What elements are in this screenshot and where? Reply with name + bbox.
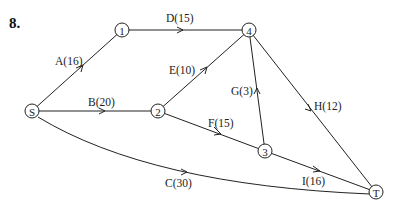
node-2: 2 <box>151 104 165 118</box>
node-label-s: S <box>29 106 35 118</box>
edge-label-h: H(12) <box>314 100 342 113</box>
edge-f: F(15) <box>158 111 265 151</box>
edge-label-i: I(16) <box>302 175 325 188</box>
node-label-4: 4 <box>246 25 252 37</box>
node-label-t: T <box>373 187 380 199</box>
edge-label-a: A(16) <box>55 55 83 68</box>
node-s: S <box>25 104 39 118</box>
network-diagram: A(16) B(20) C(30) D(15) E(10) F(15) G(3) <box>0 0 395 210</box>
node-1: 1 <box>115 23 129 37</box>
edge-label-d: D(15) <box>166 12 194 25</box>
node-3: 3 <box>258 144 272 158</box>
edge-label-g: G(3) <box>231 85 253 98</box>
edge-label-e: E(10) <box>169 64 195 77</box>
edge-g: G(3) <box>231 30 265 151</box>
node-label-3: 3 <box>262 146 268 158</box>
edge-d: D(15) <box>122 12 249 33</box>
node-label-1: 1 <box>119 25 125 37</box>
edge-label-b: B(20) <box>88 96 115 109</box>
edge-label-c: C(30) <box>165 177 192 190</box>
edge-e: E(10) <box>158 30 249 111</box>
edge-label-f: F(15) <box>208 117 234 130</box>
node-4: 4 <box>242 23 256 37</box>
edge-b: B(20) <box>32 96 158 114</box>
node-t: T <box>369 185 383 199</box>
edge-h: H(12) <box>249 30 376 192</box>
node-label-2: 2 <box>155 106 161 118</box>
